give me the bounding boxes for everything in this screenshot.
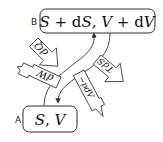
thermo-diagram: B S + dS, V + dV A S, V dQ dW TdS −pdV: [0, 0, 163, 142]
state-a-label: A: [15, 115, 22, 125]
state-b-expr: S + dS, V + dV: [39, 13, 156, 31]
state-a-expr: S, V: [35, 111, 68, 129]
entropy-flow-tds: TdS: [89, 50, 130, 90]
state-a: A S, V: [15, 106, 77, 132]
state-b-label: B: [31, 17, 37, 27]
state-b: B S + dS, V + dV: [31, 9, 157, 33]
volume-flow-pdv: −pdV: [73, 69, 109, 120]
